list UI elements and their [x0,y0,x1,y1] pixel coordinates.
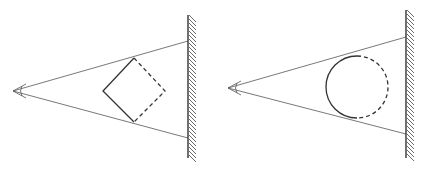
wall [188,15,196,162]
diagram-canvas [0,0,429,172]
wall [406,10,414,161]
square-panel [13,15,196,162]
lower-sight-ray [13,91,188,138]
eye-icon [228,81,241,95]
upper-sight-ray [228,37,406,88]
circle-object [326,56,388,118]
circle-panel [228,10,414,161]
upper-sight-ray [13,41,188,91]
square-object [103,58,165,122]
eye-icon [13,84,26,98]
lower-sight-ray [228,88,406,134]
